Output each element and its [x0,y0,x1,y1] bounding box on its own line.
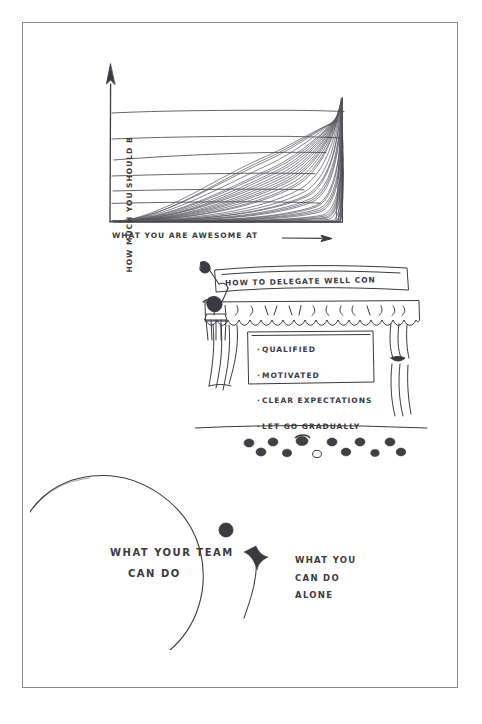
exponential-curve-bundle [112,98,343,223]
left-curtain [209,324,238,390]
team-label-line1: WHAT YOUR TEAM [110,547,234,558]
bullet-label: LET GO GRADUALLY [262,422,360,431]
conference-stage-panel: HOW TO DELEGATE WELL CON ·QUALIFIED ·MOT… [195,258,430,473]
alone-label-line1: WHAT YOU [295,555,357,565]
y-axis-label: HOW MUCH YOU SHOULD B [125,136,134,272]
team-circle-overstroke [30,478,90,544]
delegation-bullet-list: ·QUALIFIED ·MOTIVATED ·CLEAR EXPECTATION… [257,337,372,439]
alone-arrowhead [244,546,268,570]
x-axis-label: WHAT YOU ARE AWESOME AT [112,231,258,240]
alone-label-line2: CAN DO [295,573,340,583]
alone-label-line3: ALONE [295,590,333,600]
x-axis-direction-arrow [282,235,332,241]
right-curtain [390,324,411,416]
bullet-item: ·CLEAR EXPECTATIONS [257,388,372,407]
y-axis-line [110,84,111,222]
bullet-label: QUALIFIED [262,345,316,354]
team-label-line2: CAN DO [128,568,181,579]
speaker-figure [200,261,228,340]
alone-arrow-shaft [244,556,256,618]
sketch-page: HOW MUCH YOU SHOULD B WHAT YOU ARE AWESO… [0,0,482,724]
curtain-valance [205,301,420,326]
curtain-tieback [391,357,405,362]
bullet-item: ·MOTIVATED [257,363,372,382]
team-circle [30,475,203,650]
y-axis-label-wrapper: HOW MUCH YOU SHOULD B [88,60,110,220]
flat-reference-lines [112,110,344,203]
alone-dot [219,523,233,537]
awesome-chart-drawing [0,0,482,260]
team-vs-alone-drawing [30,470,430,650]
bullet-label: MOTIVATED [262,371,320,380]
awesome-chart-panel: HOW MUCH YOU SHOULD B WHAT YOU ARE AWESO… [0,0,482,260]
bullet-label: CLEAR EXPECTATIONS [262,396,372,405]
team-vs-alone-panel: WHAT YOUR TEAM CAN DO WHAT YOU CAN DO AL… [30,470,430,650]
bullet-item: ·LET GO GRADUALLY [257,414,372,433]
bullet-item: ·QUALIFIED [257,337,372,356]
